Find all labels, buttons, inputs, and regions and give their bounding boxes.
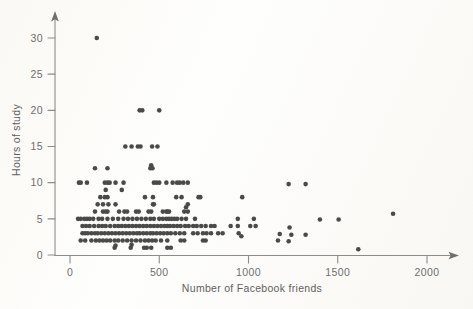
data-point — [286, 182, 291, 187]
data-point — [173, 231, 178, 236]
data-point — [98, 195, 103, 200]
x-axis-title: Number of Facebook friends — [182, 282, 322, 294]
data-point — [191, 231, 196, 236]
data-point — [356, 247, 361, 252]
data-point — [144, 245, 149, 250]
y-axis-ticks: 051015202530 — [31, 32, 55, 261]
data-point — [248, 224, 253, 229]
data-point — [78, 238, 83, 243]
data-point — [174, 195, 179, 200]
data-point — [130, 217, 135, 222]
data-point — [129, 144, 134, 149]
data-point — [157, 180, 162, 185]
data-point — [144, 217, 149, 222]
data-point — [318, 217, 323, 222]
data-point — [120, 238, 125, 243]
data-point — [153, 238, 158, 243]
data-point — [117, 209, 122, 214]
data-point — [235, 224, 240, 229]
data-point — [138, 238, 143, 243]
data-point — [220, 231, 225, 236]
y-tick-label: 0 — [37, 249, 43, 261]
data-point — [391, 211, 396, 216]
data-points-layer — [76, 36, 396, 252]
x-tick-label: 1000 — [236, 266, 261, 278]
x-tick-label: 1500 — [325, 266, 350, 278]
scatter-plot-figure: 051015202530 0500100015002000 Number of … — [0, 0, 473, 309]
data-point — [289, 232, 294, 237]
data-point — [253, 224, 258, 229]
data-point — [203, 224, 208, 229]
data-point — [78, 180, 83, 185]
data-point — [101, 202, 106, 207]
data-point — [119, 188, 124, 193]
data-point — [91, 217, 96, 222]
x-tick-label: 0 — [67, 266, 73, 278]
data-point — [95, 202, 100, 207]
chart-canvas: 051015202530 0500100015002000 Number of … — [0, 0, 473, 309]
data-point — [287, 225, 292, 230]
data-point — [126, 217, 131, 222]
data-point — [216, 231, 221, 236]
data-point — [182, 231, 187, 236]
y-tick-label: 20 — [31, 104, 43, 116]
data-point — [277, 232, 282, 237]
data-point — [129, 243, 134, 248]
data-point — [212, 224, 217, 229]
data-point — [149, 245, 154, 250]
data-point — [169, 231, 174, 236]
data-point — [113, 180, 118, 185]
data-point — [94, 36, 99, 41]
data-point — [105, 217, 110, 222]
data-point — [108, 238, 113, 243]
data-point — [151, 195, 156, 200]
data-point — [167, 209, 172, 214]
data-point — [175, 217, 180, 222]
x-tick-label: 2000 — [415, 266, 440, 278]
data-point — [113, 243, 118, 248]
data-point — [143, 195, 148, 200]
data-point — [136, 209, 141, 214]
data-point — [85, 180, 90, 185]
data-point — [286, 239, 291, 244]
data-point — [159, 238, 164, 243]
data-point — [138, 144, 143, 149]
data-point — [157, 108, 162, 113]
data-point — [116, 217, 121, 222]
data-point — [240, 195, 245, 200]
data-point — [203, 238, 208, 243]
x-tick-label: 500 — [150, 266, 169, 278]
data-point — [303, 182, 308, 187]
data-point — [107, 180, 112, 185]
data-point — [83, 238, 88, 243]
data-point — [152, 217, 157, 222]
data-point — [204, 231, 209, 236]
y-tick-label: 25 — [31, 68, 43, 80]
data-point — [252, 217, 257, 222]
data-point — [194, 224, 199, 229]
data-point — [184, 205, 189, 210]
y-tick-label: 15 — [31, 140, 43, 152]
data-point — [179, 195, 184, 200]
data-point — [155, 144, 160, 149]
y-tick-label: 30 — [31, 32, 43, 44]
data-point — [186, 180, 191, 185]
data-point — [123, 144, 128, 149]
data-point — [209, 231, 214, 236]
data-point — [184, 217, 189, 222]
data-point — [193, 217, 198, 222]
data-point — [100, 217, 105, 222]
data-point — [186, 224, 191, 229]
data-point — [140, 108, 145, 113]
data-point — [182, 238, 187, 243]
data-point — [228, 224, 233, 229]
data-point — [177, 231, 182, 236]
data-point — [93, 166, 98, 171]
data-point — [198, 195, 203, 200]
data-point — [111, 217, 116, 222]
y-tick-label: 5 — [37, 213, 43, 225]
data-point — [195, 231, 200, 236]
data-point — [135, 217, 140, 222]
data-point — [179, 217, 184, 222]
data-point — [121, 180, 126, 185]
